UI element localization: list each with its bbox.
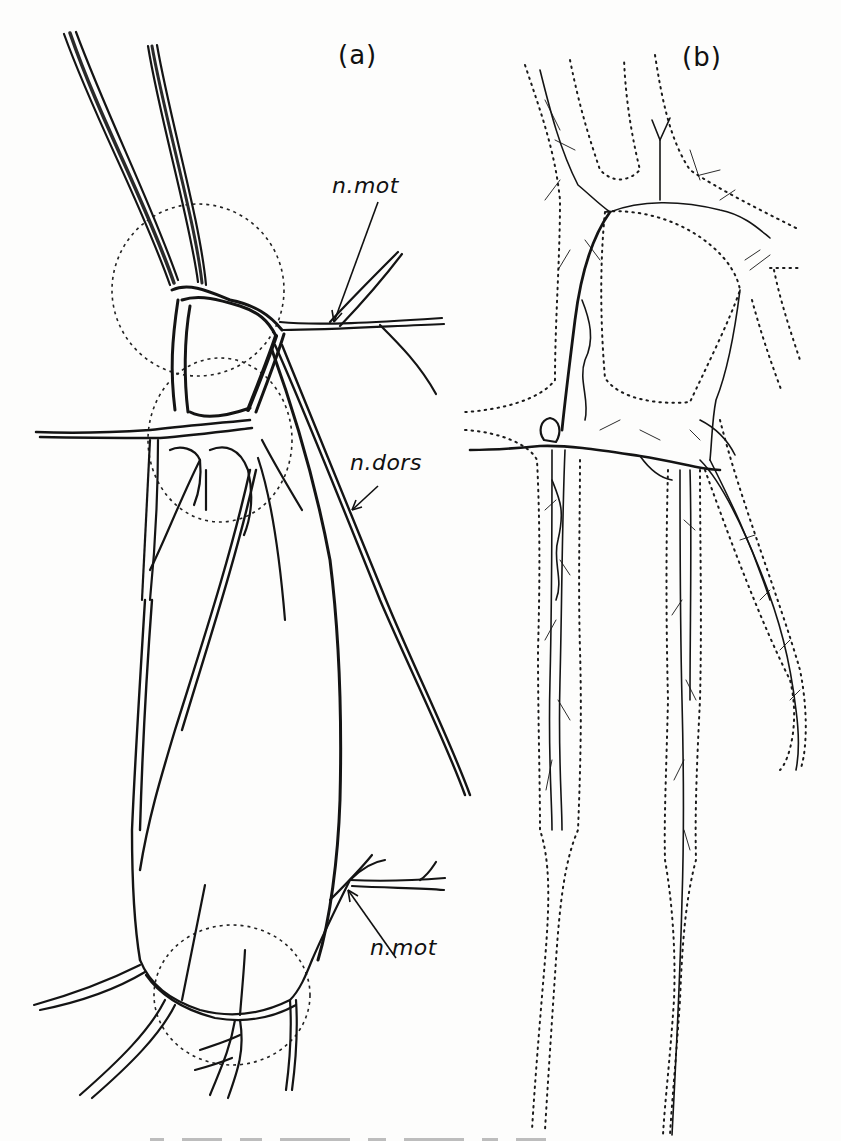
panel-b-sheath-outline [465, 55, 806, 1135]
arrow-n-mot-upper [334, 202, 378, 322]
ganglion-outline-middle [148, 358, 292, 522]
panel-label-a: (a) [338, 40, 377, 70]
figure: (a) (b) n.mot n.dors n.mot [0, 0, 841, 1141]
panel-label-b: (b) [682, 42, 722, 72]
annotation-n-mot-lower: n.mot [370, 935, 437, 960]
arrow-n-dors [352, 486, 378, 510]
annotation-n-mot-upper: n.mot [332, 173, 399, 198]
ganglion-outline-lower [154, 925, 310, 1065]
figure-caption-truncated [150, 1133, 630, 1141]
annotation-n-dors: n.dors [350, 450, 422, 475]
panel-a-drawing [0, 0, 841, 1141]
